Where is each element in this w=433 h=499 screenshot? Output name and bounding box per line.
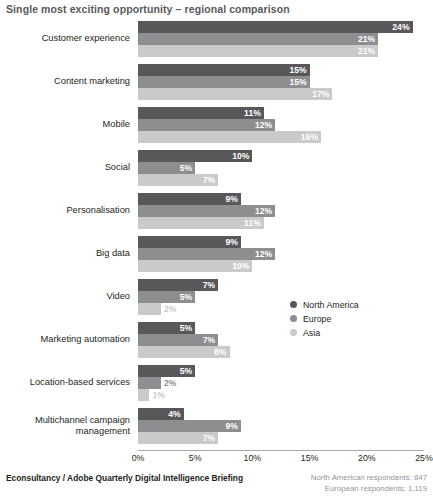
bar-value-label: 2% bbox=[164, 377, 176, 389]
bar-value-label: 12% bbox=[251, 205, 272, 217]
x-axis-tick: 0% bbox=[132, 453, 145, 463]
category-label: Marketing automation bbox=[0, 334, 130, 346]
x-axis-tick-labels: 0%5%10%15%20%25% bbox=[0, 453, 433, 467]
legend-swatch-icon bbox=[290, 329, 297, 336]
legend-label: Asia bbox=[303, 328, 320, 338]
bar-value-label: 15% bbox=[286, 76, 307, 88]
bar-group: Mobile11%12%16% bbox=[0, 107, 433, 143]
bar-na[interactable] bbox=[138, 64, 310, 76]
bar-value-label: 7% bbox=[194, 432, 215, 444]
category-label: Customer experience bbox=[0, 33, 130, 45]
bar-value-label: 7% bbox=[194, 174, 215, 186]
bar-group: Customer experience24%21%21% bbox=[0, 21, 433, 57]
category-label: Video bbox=[0, 291, 130, 303]
bar-asia[interactable] bbox=[138, 389, 149, 401]
bar-group: Video7%5%2% bbox=[0, 279, 433, 315]
legend-item-na[interactable]: North America bbox=[290, 298, 359, 311]
bar-value-label: 24% bbox=[389, 21, 410, 33]
bar-value-label: 21% bbox=[354, 33, 375, 45]
bar-value-label: 9% bbox=[217, 193, 238, 205]
bar-na[interactable] bbox=[138, 21, 413, 33]
legend-item-eu[interactable]: Europe bbox=[290, 312, 359, 325]
bar-group: Big data9%12%10% bbox=[0, 236, 433, 272]
bar-group: Marketing automation5%7%8% bbox=[0, 322, 433, 358]
bar-value-label: 12% bbox=[251, 248, 272, 260]
bar-value-label: 9% bbox=[217, 420, 238, 432]
bar-group: Social10%5%7% bbox=[0, 150, 433, 186]
x-axis-tick: 20% bbox=[358, 453, 376, 463]
bar-group: Personalisation9%12%11% bbox=[0, 193, 433, 229]
legend-label: Europe bbox=[303, 314, 331, 324]
legend-swatch-icon bbox=[290, 315, 297, 322]
bar-eu[interactable] bbox=[138, 377, 161, 389]
footer-source: Econsultancy / Adobe Quarterly Digital I… bbox=[6, 473, 243, 483]
bar-value-label: 2% bbox=[164, 303, 176, 315]
bar-eu[interactable] bbox=[138, 33, 378, 45]
x-axis-tick: 25% bbox=[415, 453, 433, 463]
chart-legend: North AmericaEuropeAsia bbox=[290, 298, 359, 340]
bar-value-label: 17% bbox=[308, 88, 329, 100]
chart-title: Single most exciting opportunity – regio… bbox=[6, 3, 290, 15]
bar-value-label: 5% bbox=[171, 322, 192, 334]
bar-value-label: 5% bbox=[171, 291, 192, 303]
bar-value-label: 9% bbox=[217, 236, 238, 248]
bar-value-label: 1% bbox=[152, 389, 164, 401]
category-label: Location-based services bbox=[0, 377, 130, 389]
legend-item-asia[interactable]: Asia bbox=[290, 326, 359, 339]
bar-value-label: 5% bbox=[171, 162, 192, 174]
bar-value-label: 10% bbox=[228, 150, 249, 162]
bar-value-label: 21% bbox=[354, 45, 375, 57]
bar-group: Multichannel campaign management4%9%7% bbox=[0, 408, 433, 444]
bar-group: Location-based services5%2%1% bbox=[0, 365, 433, 401]
category-label: Content marketing bbox=[0, 76, 130, 88]
bar-value-label: 11% bbox=[240, 217, 261, 229]
bar-value-label: 4% bbox=[160, 408, 181, 420]
bar-asia[interactable] bbox=[138, 131, 321, 143]
category-label: Multichannel campaign management bbox=[0, 415, 130, 438]
category-label: Mobile bbox=[0, 119, 130, 131]
legend-swatch-icon bbox=[290, 301, 297, 308]
bar-asia[interactable] bbox=[138, 45, 378, 57]
x-axis-tick: 15% bbox=[301, 453, 319, 463]
bar-asia[interactable] bbox=[138, 303, 161, 315]
category-label: Big data bbox=[0, 248, 130, 260]
plot-area: Customer experience24%21%21%Content mark… bbox=[0, 18, 433, 450]
bar-value-label: 11% bbox=[240, 107, 261, 119]
footer-respondents: North American respondents: 847European … bbox=[311, 473, 427, 494]
chart-container: Single most exciting opportunity – regio… bbox=[0, 0, 433, 499]
respondent-line: European respondents: 1,119 bbox=[311, 484, 427, 495]
respondent-line: North American respondents: 847 bbox=[311, 473, 427, 484]
bar-value-label: 15% bbox=[286, 64, 307, 76]
bar-value-label: 16% bbox=[297, 131, 318, 143]
legend-label: North America bbox=[303, 300, 359, 310]
category-label: Social bbox=[0, 162, 130, 174]
x-axis-tick: 10% bbox=[244, 453, 262, 463]
x-axis-tick: 5% bbox=[189, 453, 202, 463]
bar-value-label: 7% bbox=[194, 279, 215, 291]
x-axis-line bbox=[138, 450, 424, 451]
bar-value-label: 12% bbox=[251, 119, 272, 131]
bar-value-label: 7% bbox=[194, 334, 215, 346]
bar-value-label: 5% bbox=[171, 365, 192, 377]
bar-eu[interactable] bbox=[138, 76, 310, 88]
bar-asia[interactable] bbox=[138, 88, 332, 100]
bar-value-label: 10% bbox=[228, 260, 249, 272]
category-label: Personalisation bbox=[0, 205, 130, 217]
bar-group: Content marketing15%15%17% bbox=[0, 64, 433, 100]
bar-value-label: 8% bbox=[206, 346, 227, 358]
